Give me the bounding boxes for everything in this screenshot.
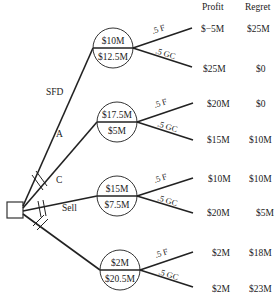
regret-sfd-f: $25M bbox=[247, 24, 270, 34]
regret-sfd-gc: $0 bbox=[256, 64, 266, 74]
prob-sfd-f: .5 F bbox=[151, 22, 167, 36]
expected-profit-c: $15M bbox=[106, 184, 129, 194]
chance-node-a: $17.5M $5M bbox=[97, 102, 139, 142]
prob-a-f: .5 F bbox=[153, 96, 169, 110]
prob-c-f: .5 F bbox=[153, 171, 169, 185]
chance-node-c: $15M $7.5M bbox=[97, 176, 139, 216]
expected-regret-a: $5M bbox=[108, 126, 127, 136]
prune-mark-c bbox=[38, 200, 46, 217]
expected-regret-sfd: $12.5M bbox=[98, 52, 128, 62]
profit-a-gc: $15M bbox=[207, 135, 230, 145]
branch-label-c: C bbox=[56, 175, 62, 185]
branch-line-sell bbox=[23, 214, 100, 270]
profit-c-gc: $20M bbox=[207, 208, 230, 218]
profit-sell-f: $2M bbox=[212, 248, 231, 258]
regret-a-gc: $10M bbox=[249, 135, 272, 145]
branch-label-sell: Sell bbox=[62, 203, 77, 213]
branch-line-c bbox=[23, 196, 97, 211]
expected-regret-c: $7.5M bbox=[104, 200, 130, 210]
regret-c-gc: $5M bbox=[256, 208, 275, 218]
prob-sell-f: .5 F bbox=[154, 246, 170, 260]
profit-header: Profit bbox=[202, 2, 224, 12]
branch-label-sfd: SFD bbox=[46, 87, 64, 97]
decision-node-square bbox=[7, 202, 23, 218]
profit-sell-gc: $2M bbox=[212, 284, 231, 294]
expected-profit-sell: $2M bbox=[111, 258, 130, 268]
expected-profit-sfd: $10M bbox=[102, 36, 125, 46]
regret-sell-f: $18M bbox=[249, 248, 272, 258]
profit-sfd-gc: $25M bbox=[203, 64, 226, 74]
regret-sell-gc: $23M bbox=[249, 284, 272, 294]
chance-node-sell: $2M $20.5M bbox=[100, 250, 142, 290]
chance-node-sfd: $10M $12.5M bbox=[93, 28, 135, 68]
branch-label-a: A bbox=[56, 129, 63, 139]
profit-c-f: $10M bbox=[208, 174, 231, 184]
regret-header: Regret bbox=[245, 2, 271, 12]
expected-profit-a: $17.5M bbox=[102, 110, 132, 120]
profit-sfd-f: $−5M bbox=[201, 24, 225, 34]
regret-c-f: $10M bbox=[249, 174, 272, 184]
profit-a-f: $20M bbox=[207, 99, 230, 109]
decision-tree: Profit Regret SFD A C Sell $10M $12.5M .… bbox=[0, 0, 278, 297]
regret-a-f: $0 bbox=[256, 99, 266, 109]
expected-regret-sell: $20.5M bbox=[105, 274, 135, 284]
